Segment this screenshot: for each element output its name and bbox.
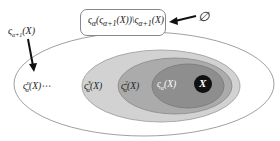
level-1-label: ςα(X) (157, 80, 176, 91)
left-arrowhead (169, 17, 178, 25)
empty-set-symbol: ∅ (198, 10, 209, 23)
level-2-label: ς2α(X) (121, 80, 139, 93)
level-3-label: ς3α(X) (84, 80, 102, 93)
left-arrow (175, 16, 196, 21)
core-set-label: X (199, 78, 206, 89)
outer-iterate-label: ςnα(X)⋯ (23, 80, 51, 93)
difference-set-label: ςα(ςα+1(X))\ςα+1(X) (88, 15, 164, 28)
successor-label: ςα+1(X) (8, 26, 35, 38)
